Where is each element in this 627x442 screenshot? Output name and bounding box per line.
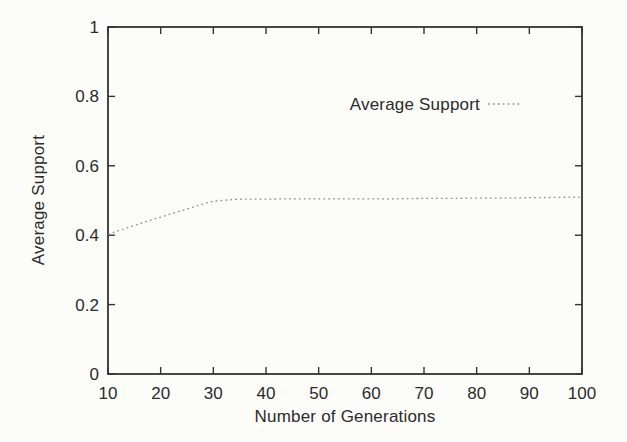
series-line: [108, 197, 582, 234]
x-tick-label: 60: [362, 384, 381, 403]
x-tick-label: 90: [520, 384, 539, 403]
y-axis-title: Average Support: [29, 135, 49, 265]
y-tick-label: 1: [90, 18, 99, 37]
plot-frame: [108, 27, 582, 374]
y-tick-label: 0.2: [75, 296, 99, 315]
y-tick-label: 0.8: [75, 87, 99, 106]
x-tick-label: 20: [151, 384, 170, 403]
x-tick-label: 10: [99, 384, 118, 403]
y-tick-label: 0.6: [75, 157, 99, 176]
chart: 10203040506070809010000.20.40.60.81 Aver…: [0, 0, 627, 442]
x-tick-label: 80: [467, 384, 486, 403]
legend-label: Average Support: [300, 95, 480, 115]
plot-area: 10203040506070809010000.20.40.60.81: [0, 0, 627, 442]
x-axis-title: Number of Generations: [108, 407, 582, 427]
x-tick-label: 30: [204, 384, 223, 403]
y-tick-label: 0: [90, 365, 99, 384]
x-tick-label: 40: [257, 384, 276, 403]
x-tick-label: 100: [568, 384, 596, 403]
x-tick-label: 50: [309, 384, 328, 403]
x-tick-label: 70: [415, 384, 434, 403]
y-tick-label: 0.4: [75, 226, 99, 245]
